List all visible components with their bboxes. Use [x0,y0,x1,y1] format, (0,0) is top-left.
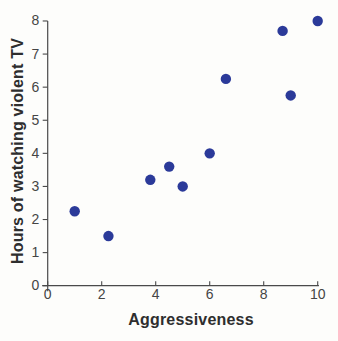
y-tick-label: 8 [31,12,39,28]
plot-area: 0123456780246810 [0,0,338,341]
data-point [286,90,296,100]
y-tick-label: 1 [31,244,39,260]
y-tick-label: 0 [31,277,39,293]
data-point [277,26,287,36]
data-point [70,206,80,216]
x-tick-label: 4 [152,286,160,302]
data-point [145,175,155,185]
data-point [221,74,231,84]
x-axis-title: Aggressiveness [128,311,254,329]
scatter-chart-figure: 0123456780246810 Hours of watching viole… [0,0,338,341]
data-point [164,161,174,171]
y-tick-label: 3 [31,178,39,194]
x-tick-label: 2 [98,286,106,302]
y-tick-label: 2 [31,211,39,227]
y-tick-label: 7 [31,46,39,62]
data-point [103,231,113,241]
x-tick-label: 6 [206,286,214,302]
x-tick-label: 8 [260,286,268,302]
y-tick-label: 6 [31,79,39,95]
data-point [178,181,188,191]
x-tick-label: 10 [310,286,326,302]
x-tick-label: 0 [44,286,52,302]
y-axis-title: Hours of watching violent TV [9,38,27,264]
y-tick-label: 5 [31,112,39,128]
y-tick-label: 4 [31,145,39,161]
data-point [205,148,215,158]
data-point [313,16,323,26]
